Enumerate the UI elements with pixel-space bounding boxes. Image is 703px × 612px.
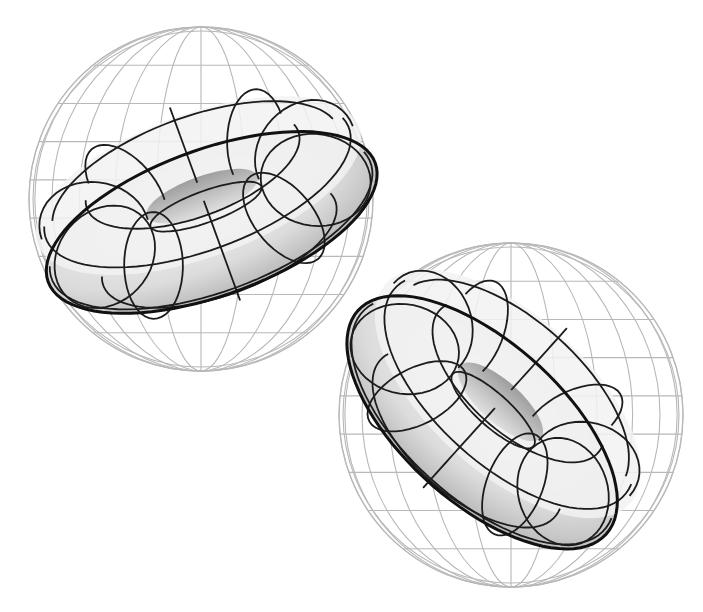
diagram-canvas: [0, 0, 703, 612]
torus: [6, 48, 403, 360]
torus-lower-right: [299, 216, 691, 599]
tori-in-spheres-illustration: [0, 0, 703, 612]
torus-upper-left: [6, 27, 403, 371]
